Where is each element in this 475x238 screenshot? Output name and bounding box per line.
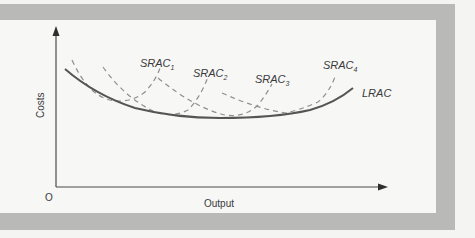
x-axis-arrow-icon xyxy=(378,184,388,191)
srac3-label: SRAC3 xyxy=(255,73,290,87)
x-axis xyxy=(56,184,388,191)
y-axis xyxy=(53,26,60,187)
y-axis-label: Costs xyxy=(35,92,46,118)
origin-label: O xyxy=(45,192,53,203)
srac4-label: SRAC4 xyxy=(323,59,358,73)
lrac-label: LRAC xyxy=(362,87,391,99)
y-axis-arrow-icon xyxy=(53,26,60,36)
srac1-label: SRAC1 xyxy=(140,57,175,71)
x-axis-label: Output xyxy=(204,198,234,209)
srac2-label: SRAC2 xyxy=(193,67,228,81)
cost-curves-diagram: SRAC1 SRAC2 SRAC3 SRAC4 LRAC O Output Co… xyxy=(0,0,475,238)
